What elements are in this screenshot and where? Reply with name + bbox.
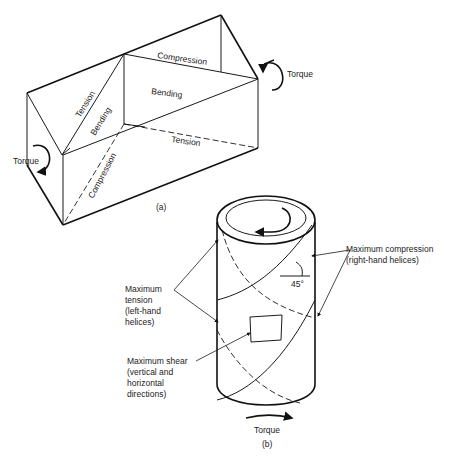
stress-diagram: Torque Torque Compression Bending Tensio… [0,0,456,460]
max-tension-label-3: (left-hand [125,306,161,316]
max-compression-label-1: Maximum compression [346,244,434,254]
prism-right-edge [221,15,258,79]
helix-solid-2 [217,300,315,400]
caption-a: (a) [156,202,167,212]
angle-arc [296,262,302,276]
prism-figure: Torque Torque Compression Bending Tensio… [13,15,313,225]
helix-dashed-2 [217,330,300,403]
bottom-torque-arrow-icon [246,415,292,418]
prism-left-diagonal [27,93,62,155]
diagram-svg: Torque Torque Compression Bending Tensio… [0,0,456,460]
prism-left-bottom-edge [27,165,63,225]
tension-leader-2 [174,290,218,322]
cylinder-top-outer [217,196,315,244]
cylinder-top-inner [226,200,306,236]
torque-right-arrowhead-icon [263,60,274,72]
max-shear-label-4: directions) [127,389,166,399]
torque-right-label: Torque [287,69,313,79]
compression-leader-1 [312,250,350,256]
shear-element [250,315,282,342]
torque-bottom-label: Torque [254,425,280,435]
max-compression-label-2: (right-hand helices) [346,255,419,265]
max-tension-label-2: tension [125,295,153,305]
caption-b: (b) [262,439,273,449]
compression-diagonal-label: Compression [86,151,118,200]
cylinder-figure: 45° Maximum compression (right-hand heli… [125,196,434,449]
torque-right-arrow-icon [264,63,283,90]
max-tension-label-4: helices) [125,317,154,327]
shear-leader [196,333,250,361]
max-shear-label-2: (vertical and [127,367,174,377]
max-tension-label-1: Maximum [125,284,162,294]
top-rotation-arrow-icon [256,208,290,232]
torque-left-label: Torque [13,156,39,166]
bending-diagonal-label: Bending [88,105,113,137]
tension-leader-1 [174,240,218,290]
max-shear-label-3: horizontal [127,378,164,388]
angle-label: 45° [291,279,304,289]
bending-top-label: Bending [151,86,183,100]
tension-bottom-label: Tension [171,134,202,148]
max-shear-label-1: Maximum shear [127,356,188,366]
